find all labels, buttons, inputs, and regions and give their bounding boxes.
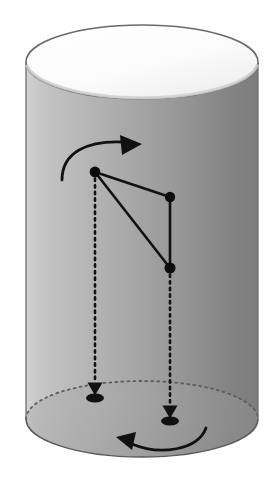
point-b [165, 192, 175, 202]
point-a [90, 167, 101, 178]
figure-container [0, 0, 280, 501]
cylinder-diagram [0, 0, 280, 501]
point-c [164, 262, 175, 273]
projection-a-foot-marker [86, 393, 104, 402]
projection-c-foot-marker [161, 416, 179, 425]
cylinder-body [26, 62, 258, 457]
cylinder-top-face-group [26, 25, 258, 99]
